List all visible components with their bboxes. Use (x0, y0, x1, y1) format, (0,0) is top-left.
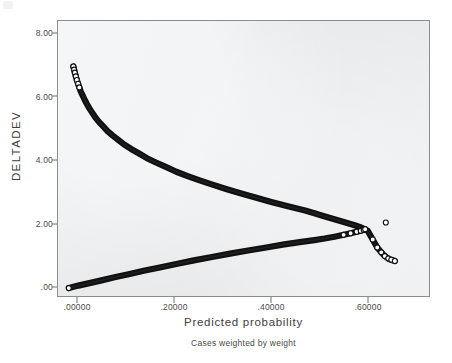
series-outlier (383, 220, 388, 225)
axis-tick-marks (52, 33, 368, 303)
data-layer (0, 0, 452, 363)
spss-scatterplot-figure: 8.00 6.00 4.00 2.00 .00 .00000 .20000 .4… (0, 0, 452, 363)
series-deviance-nonevent (66, 227, 367, 291)
